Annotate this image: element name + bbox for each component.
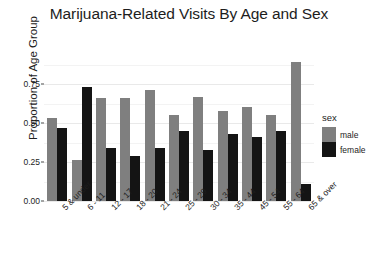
x-tick-label: 12 - 17 [109, 205, 116, 212]
bar-male[interactable] [120, 98, 130, 201]
legend-items: malefemale [322, 127, 380, 157]
bar-male[interactable] [47, 118, 57, 201]
bar-group [289, 56, 313, 201]
x-axis-ticks: 5 & under6 - 1112 - 1718 - 2021 - 2425 -… [44, 203, 314, 267]
bar-group [94, 56, 118, 201]
bar-female[interactable] [106, 148, 116, 201]
y-tick-label: 0.50 [14, 118, 40, 128]
bar-group [167, 56, 191, 201]
y-tick-label: 0.00 [14, 196, 40, 206]
x-tick-label: 6 - 11 [85, 205, 92, 212]
y-axis-ticks: 0.000.250.500.75 [10, 56, 40, 201]
y-tick-label: 0.75 [14, 79, 40, 89]
x-tick-label: 30 - 34 [208, 205, 215, 212]
bar-group [142, 56, 166, 201]
legend-swatch [322, 142, 336, 157]
chart-title: Marijuana-Related Visits By Age and Sex [44, 4, 334, 23]
x-tick-label: 5 & under [60, 205, 67, 212]
bar-male[interactable] [145, 90, 155, 201]
legend-row[interactable]: female [322, 142, 380, 157]
legend-label: male [340, 130, 358, 140]
bar-male[interactable] [291, 62, 301, 201]
bar-group [264, 56, 288, 201]
x-tick-label: 18 - 20 [134, 205, 141, 212]
x-tick-label: 65 & over [306, 205, 313, 212]
legend: sex malefemale [322, 112, 380, 157]
legend-swatch [322, 127, 336, 142]
x-tick-label: 45 - 54 [257, 205, 264, 212]
x-tick-label: 55 - 64 [281, 205, 288, 212]
x-tick-label: 21 - 24 [158, 205, 165, 212]
bar-group [191, 56, 215, 201]
bar-group [69, 56, 93, 201]
x-tick-label: 25 - 29 [183, 205, 190, 212]
bar-group [118, 56, 142, 201]
legend-row[interactable]: male [322, 127, 380, 142]
chart-container: Marijuana-Related Visits By Age and Sex … [0, 0, 381, 269]
bar-group [216, 56, 240, 201]
legend-title: sex [322, 112, 380, 123]
bar-group [240, 56, 264, 201]
legend-label: female [340, 145, 366, 155]
bar-group [45, 56, 69, 201]
bar-female[interactable] [57, 128, 67, 201]
bar-male[interactable] [193, 97, 203, 201]
x-tick-label: 35 - 44 [232, 205, 239, 212]
bar-male[interactable] [96, 98, 106, 201]
y-tick-label: 0.25 [14, 157, 40, 167]
